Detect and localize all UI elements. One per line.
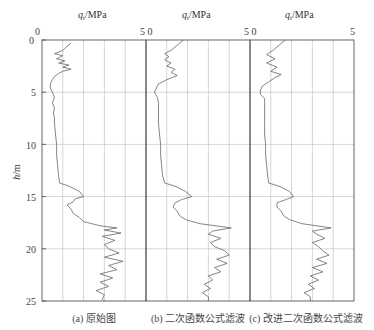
x-tick-5-c: 5 (350, 26, 355, 37)
chart: qt/MPa qt/MPa qt/MPa 0 5 0 5 0 5 0 5 10 … (0, 0, 374, 330)
panel-frames (42, 40, 354, 301)
x-axis-title-c: qt/MPa (285, 9, 314, 22)
y-axis-title: h/m (11, 164, 22, 180)
y-tick-0: 0 (29, 35, 34, 46)
x-axis-title-a: qt/MPa (78, 9, 107, 22)
x-tick-0-a: 0 (35, 26, 40, 37)
curve-panel-a (50, 43, 123, 301)
caption-c: (c) 改进二次函数公式滤波 (249, 312, 363, 325)
y-tick-20: 20 (26, 244, 36, 255)
caption-a: (a) 原始图 (72, 312, 116, 325)
x-axis-title-b: qt/MPa (182, 9, 211, 22)
caption-b: (b) 二次函数公式滤波 (151, 312, 245, 325)
panel-frame-a (42, 40, 146, 301)
y-tick-5: 5 (31, 87, 36, 98)
panel-frame-b (146, 40, 250, 301)
y-tick-25: 25 (26, 296, 36, 307)
x-tick-50-ab: 5 0 (140, 26, 153, 37)
y-tick-15: 15 (26, 192, 36, 203)
x-tick-50-bc: 5 0 (244, 26, 257, 37)
curve-panel-b (154, 40, 231, 301)
y-tick-10: 10 (26, 140, 36, 151)
panel-frame-c (250, 40, 354, 301)
grid-lines (42, 40, 354, 301)
data-curves (50, 40, 331, 301)
